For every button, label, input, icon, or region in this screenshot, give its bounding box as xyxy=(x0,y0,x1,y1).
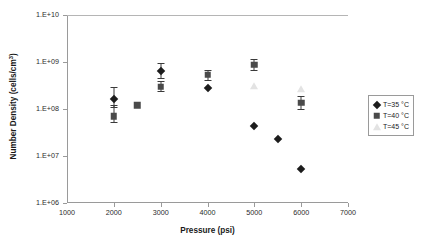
error-bar-cap xyxy=(157,91,164,92)
legend-label: T=45 °C xyxy=(383,123,409,130)
data-point-square xyxy=(373,112,380,119)
y-tick-mark xyxy=(63,62,67,63)
y-tick-label: 1.E+10 xyxy=(36,11,59,19)
legend-marker-triangle-icon xyxy=(372,122,381,131)
x-tick-label: 7000 xyxy=(328,208,368,217)
legend-marker-square-icon xyxy=(372,111,381,120)
y-axis-title-tail: ) xyxy=(9,53,18,56)
error-bar-cap xyxy=(204,80,211,81)
error-bar-cap xyxy=(204,70,211,71)
x-tick-mark xyxy=(348,203,349,207)
y-axis-title-exponent: 3 xyxy=(8,56,14,59)
error-bar-cap xyxy=(251,59,258,60)
error-bar-cap xyxy=(251,70,258,71)
error-bar-cap xyxy=(157,78,164,79)
x-tick-mark xyxy=(114,203,115,207)
error-bar-cap xyxy=(110,105,117,106)
error-bar-cap xyxy=(110,87,117,88)
x-tick-label: 4000 xyxy=(188,208,228,217)
plot-top-border xyxy=(67,15,348,16)
x-tick-label: 6000 xyxy=(281,208,321,217)
x-tick-label: 1000 xyxy=(47,208,87,217)
x-tick-mark xyxy=(161,203,162,207)
data-point-square xyxy=(298,100,305,107)
error-bar-cap xyxy=(157,81,164,82)
error-bar-cap xyxy=(110,122,117,123)
data-point-diamond xyxy=(372,100,380,108)
x-tick-label: 2000 xyxy=(94,208,134,217)
legend-label: T=40 °C xyxy=(383,112,409,119)
y-tick-label: 1.E+06 xyxy=(36,199,59,207)
x-tick-mark xyxy=(208,203,209,207)
legend-item: T=45 °C xyxy=(372,121,409,132)
x-tick-mark xyxy=(254,203,255,207)
y-axis-title: Number Density (cells/cm3) xyxy=(8,11,19,201)
data-point-square xyxy=(111,113,118,120)
error-bar-cap xyxy=(298,109,305,110)
y-axis-title-text: Number Density (cells/cm xyxy=(9,59,18,159)
data-point-triangle xyxy=(250,82,258,89)
plot-area xyxy=(67,15,348,203)
data-point-triangle xyxy=(297,86,305,93)
data-point-square xyxy=(157,83,164,90)
chart-figure: 1.E+061.E+071.E+081.E+091.E+10 100020003… xyxy=(0,0,429,247)
y-tick-mark xyxy=(63,109,67,110)
legend-item: T=35 °C xyxy=(372,99,409,110)
error-bar-cap xyxy=(157,63,164,64)
y-tick-mark xyxy=(63,156,67,157)
data-point-triangle xyxy=(373,123,381,130)
y-tick-mark xyxy=(63,15,67,16)
legend-item: T=40 °C xyxy=(372,110,409,121)
chart-legend: T=35 °CT=40 °CT=45 °C xyxy=(368,95,414,136)
x-tick-mark xyxy=(301,203,302,207)
error-bar-cap xyxy=(298,96,305,97)
x-tick-label: 5000 xyxy=(234,208,274,217)
legend-marker-diamond-icon xyxy=(372,100,381,109)
y-tick-label: 1.E+09 xyxy=(36,58,59,66)
y-tick-label: 1.E+08 xyxy=(36,105,59,113)
x-axis-title: Pressure (psi) xyxy=(67,226,348,235)
legend-label: T=35 °C xyxy=(383,101,409,108)
data-point-square xyxy=(134,102,141,109)
x-tick-label: 3000 xyxy=(141,208,181,217)
data-point-square xyxy=(251,62,258,69)
data-point-square xyxy=(204,72,211,79)
y-tick-mark xyxy=(63,203,67,204)
y-tick-label: 1.E+07 xyxy=(36,152,59,160)
